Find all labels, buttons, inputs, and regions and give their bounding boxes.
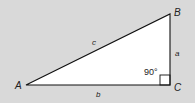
vertex-label-b: B [174, 7, 181, 18]
angle-label-90: 90° [144, 67, 158, 77]
side-label-a: a [175, 49, 180, 58]
right-triangle-diagram: A B C c b a 90° [0, 0, 195, 103]
side-label-b: b [96, 90, 101, 99]
vertex-label-c: C [174, 82, 182, 93]
side-label-c: c [92, 38, 96, 47]
vertex-label-a: A [14, 80, 22, 91]
